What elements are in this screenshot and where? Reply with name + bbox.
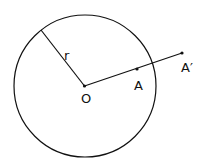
radius-label: r bbox=[64, 48, 70, 63]
point-a bbox=[135, 67, 138, 70]
inversion-diagram: r O A A′ bbox=[0, 0, 206, 166]
point-a-prime-label: A′ bbox=[181, 60, 193, 75]
center-label: O bbox=[81, 91, 91, 106]
point-a-label: A bbox=[134, 78, 143, 93]
center-point bbox=[83, 84, 86, 87]
point-a-prime bbox=[180, 51, 183, 54]
radius-line bbox=[41, 30, 85, 86]
